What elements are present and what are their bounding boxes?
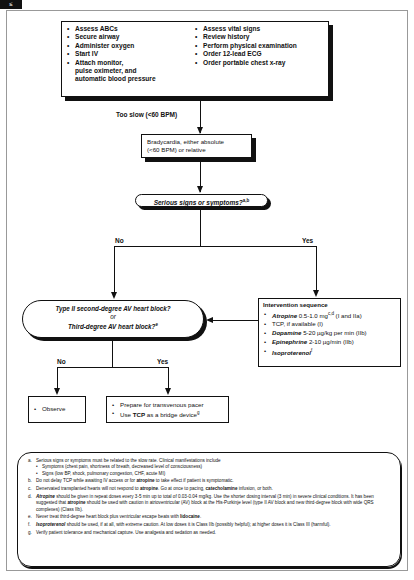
av-yes-label: Yes [157,358,168,365]
connector-line [316,246,317,291]
av-no-label: No [57,358,66,365]
observe-item: Observe [33,405,81,413]
arrow-down-icon [165,388,171,395]
branch-yes-label: Yes [302,237,313,244]
assessment-box: Assess ABCs Secure airway Administer oxy… [61,21,329,97]
intervention-title: Intervention sequence [263,301,396,310]
arrow-down-icon [197,127,203,134]
assessment-item: Assess vital signs [194,25,324,33]
corner-page-tab: ≤ [0,0,22,9]
intervention-item: Isoproterenolf [263,347,396,358]
arrow-down-icon [111,292,117,299]
intervention-list: Atropine 0.5-1.0 mgc,d (I and IIa) TCP, … [263,310,396,358]
branch-no-label: No [115,237,124,244]
av-block-decision: Type II second-degree AV heart block? or… [22,300,204,338]
branch-line [114,246,316,247]
intervention-item: Dopamine 5-20 µg/kg per min (IIb) [263,329,396,338]
intervention-box: Intervention sequence Atropine 0.5-1.0 m… [258,298,401,367]
intervention-item: Epinephrine 2-10 µg/min (IIb) [263,338,396,347]
footnote-c: c.Denervated transplanted hearts will no… [26,486,392,492]
observe-box: Observe [28,396,86,423]
assessment-item: Order 12-lead ECG [194,50,324,58]
footnote-d: d.Atropine should be given in repeat dos… [26,494,392,513]
assessment-item-cont: automatic blood pressure [66,75,194,83]
assessment-item: Assess ABCs [66,25,194,33]
assessment-list-left: Assess ABCs Secure airway Administer oxy… [66,25,194,93]
footnote-e: e.Never treat third-degree heart block p… [26,514,392,520]
av-block-text: Type II second-degree AV heart block? [23,305,203,313]
footnote-a: a.Serious signs or symptoms must be rela… [26,458,392,477]
serious-signs-decision: Serious signs or symptoms?a,b [135,194,268,207]
bradycardia-text: Bradycardia, either absolute [147,138,246,146]
assessment-item: Start IV [66,50,194,58]
connector-line [168,367,169,390]
assessment-item: Review history [194,33,324,41]
footnotes-box: a.Serious signs or symptoms must be rela… [17,452,401,567]
connector-line [114,246,115,294]
bradycardia-box: Bradycardia, either absolute (<60 BPM) o… [141,134,252,158]
arrow-down-icon [197,186,203,193]
assessment-item: Secure airway [66,33,194,41]
connector-line [57,367,58,390]
intervention-item: TCP, if available (I) [263,320,396,329]
av-block-or: or [23,313,203,321]
connector-line [200,210,201,246]
arrow-left-icon [206,317,213,323]
arrow-down-icon [54,388,60,395]
assessment-item: Order portable chest x-ray [194,59,324,67]
connector-line [112,341,113,367]
intervention-item: Atropine 0.5-1.0 mgc,d (I and IIa) [263,310,396,321]
prepare-pacer-box: Prepare for transvenous pacer Use TCP as… [106,396,229,423]
footnote-g: g.Verify patient tolerance and mechanica… [26,530,392,536]
connector-line [212,320,258,321]
branch-line [57,367,168,368]
arrow-down-icon [313,290,319,297]
footnote-b: b.Do not delay TCP while awaiting IV acc… [26,478,392,484]
assessment-item: Administer oxygen [66,42,194,50]
footnote-ref: a,b [243,198,250,203]
assessment-item: Attach monitor, [66,59,194,67]
assessment-item-cont: pulse oximeter, and [66,67,194,75]
prepare-item: Prepare for transvenous pacer [111,401,224,409]
footnote-f: f.Isoproterenol should be used, if at al… [26,522,392,528]
serious-signs-text: Serious signs or symptoms? [154,199,243,206]
prepare-item: Use TCP as a bridge deviceg [111,409,224,419]
bradycardia-text: (<60 BPM) or relative [147,146,246,154]
assessment-item: Perform physical examination [194,42,324,50]
too-slow-label: Too slow (<60 BPM) [116,111,177,118]
assessment-list-right: Assess vital signs Review history Perfor… [194,25,324,93]
av-block-text: Third-degree AV heart block?e [23,321,203,331]
footnote-a-sub: Signs (low BP, shock, pulmonary congesti… [36,471,392,477]
